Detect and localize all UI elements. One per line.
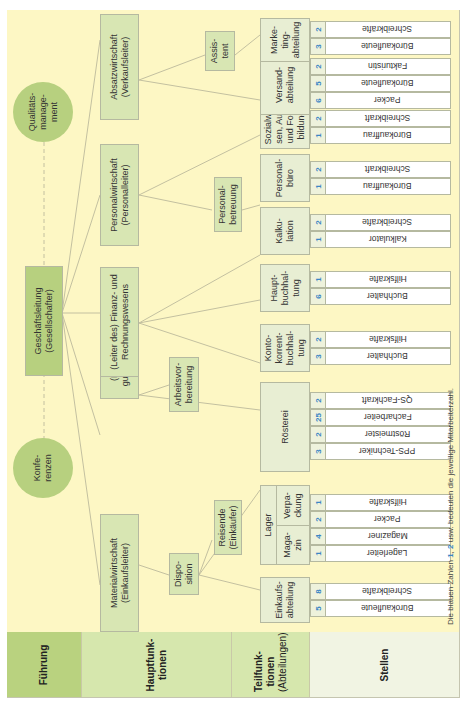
- stelle-hb-buchhalter: 6Buchhalter: [310, 288, 451, 305]
- department-text: Kalku- lation: [274, 218, 296, 244]
- stelle-fakturistin: 2Fakturistin: [310, 58, 451, 75]
- stelle-pb-buerokauffrau: 1Bürokauffrau: [310, 178, 451, 195]
- stelle-count: 2: [311, 427, 326, 442]
- main-function-text: Absatzwirtschaft (Verkaufsleiter): [109, 34, 131, 100]
- department-verpackung: Verpa- ckung: [276, 485, 310, 526]
- department-text: Lager: [263, 513, 274, 536]
- intermediate-text: Dispo- sition: [173, 561, 195, 587]
- stelle-label: Packer: [374, 515, 400, 525]
- stelle-label: Bürokaufleute: [361, 42, 413, 52]
- konferenzen-text: Konfe- renzen: [32, 454, 54, 482]
- department-text: Konto- korrent- buchhal- tung: [263, 331, 307, 366]
- stelle-label: Schreibkräfte: [362, 25, 412, 35]
- stelle-count: 1: [311, 546, 326, 561]
- main-function-personalwirtschaft: Personalwirtschaft (Personalleiter): [100, 144, 139, 246]
- stelle-roestmeister: 2Röstmeister: [310, 426, 451, 443]
- stelle-label: Schreibkräfte: [362, 587, 412, 597]
- department-text: Einkaufs- abteilung: [274, 581, 296, 619]
- footnote-number: 1: [446, 553, 455, 557]
- department-text: Maga- zin: [282, 532, 304, 558]
- stelle-kalkulator: 1Kalkulator: [310, 231, 451, 248]
- stelle-count: 2: [311, 22, 326, 37]
- department-text: Marke- ting- abteilung: [269, 22, 302, 59]
- main-function-absatzwirtschaft: Absatzwirtschaft (Verkaufsleiter): [100, 14, 139, 120]
- main-function-text: Personalwirtschaft (Personalleiter): [109, 158, 131, 232]
- stelle-count: 2: [311, 59, 326, 74]
- department-text: Rösterei: [280, 410, 291, 444]
- department-personalbuero: Personal- büro: [260, 154, 310, 202]
- stelle-count: 6: [311, 93, 326, 108]
- stelle-label: Buchhalter: [367, 292, 408, 302]
- footnote-number: 2: [446, 544, 455, 548]
- stelle-count: 25: [311, 410, 326, 425]
- intermediate-text: Arbeitsvor- bereitung: [173, 363, 195, 407]
- stelle-label: Schreibkraft: [365, 165, 410, 175]
- stelle-label: Lagerleiter: [367, 549, 407, 559]
- stelle-count: 3: [311, 39, 326, 54]
- department-versand: Versand- abteilung: [260, 55, 310, 115]
- stelle-label: Bürokaufleute: [361, 79, 413, 89]
- personalbetreuung-box: Personal- betreuung: [214, 177, 242, 232]
- stelle-kalk-schreibkraefte: 2Schreibkräfte: [310, 214, 451, 231]
- stelle-label: PPS-Techniker: [359, 447, 415, 457]
- department-text: Verpa- ckung: [282, 492, 304, 519]
- geschaeftsleitung-text: Geschäftsleitung (Gesellschafter): [33, 287, 55, 354]
- stelle-count: 1: [311, 232, 326, 247]
- department-text: Haupt- buchhal- tung: [269, 271, 302, 306]
- stelle-label: Hilfskräfte: [369, 335, 407, 345]
- stelle-versand-packer: 6Packer: [310, 92, 451, 109]
- stelle-magaziner: 4Magaziner: [310, 528, 451, 545]
- stelle-label: Bürokaufleute: [361, 604, 413, 614]
- stelle-label: Packer: [374, 96, 400, 106]
- intermediate-text: Reisende (Einkäufer): [217, 506, 239, 550]
- assistent-box: Assis- tent: [205, 31, 235, 71]
- department-hauptbuchhaltung: Haupt- buchhal- tung: [260, 264, 310, 312]
- stelle-label: Buchhalter: [367, 352, 408, 362]
- department-magazin: Maga- zin: [276, 525, 310, 565]
- qualitaetsmanagement-text: Qualitäts- manage- ment: [27, 93, 60, 132]
- intermediate-text: Personal- betreuung: [217, 184, 239, 225]
- reisende-box: Reisende (Einkäufer): [214, 500, 242, 555]
- stelle-packer-lager: 2Packer: [310, 511, 451, 528]
- footnote: Die blauen Zahlen 1, 2 usw. bedeuten die…: [446, 388, 455, 625]
- stelle-pps-techniker: 3PPS-Techniker: [310, 443, 451, 460]
- stelle-kk-buchhalter: 3Buchhalter: [310, 348, 451, 365]
- stelle-count: 4: [311, 529, 326, 544]
- department-marketing: Marke- ting- abteilung: [260, 18, 310, 62]
- department-kalkulation: Kalku- lation: [260, 207, 310, 255]
- stelle-label: Kalkulator: [369, 235, 407, 245]
- department-lager: Lager: [260, 485, 277, 565]
- stelle-sw-schreibkraft: 2Schreibkraft: [310, 110, 451, 127]
- stelle-hb-hilfskraefte: 1Hilfskräfte: [310, 271, 451, 288]
- stelle-label: Fakturistin: [368, 62, 407, 72]
- main-function-text: (Leiter des) Finanz- und Rechnungswesens: [109, 274, 131, 370]
- stelle-label: Facharbeiter: [364, 413, 412, 423]
- stelle-mk-schreibkraefte: 2Schreibkräfte: [310, 21, 451, 38]
- geschaeftsleitung-box: Geschäftsleitung (Gesellschafter): [25, 266, 63, 376]
- stelle-count: 6: [311, 289, 326, 304]
- stelle-lagerleiter: 1Lagerleiter: [310, 545, 451, 562]
- footnote-text: ,: [446, 549, 455, 553]
- stelle-einkauf-schreibkraefte: 8Schreibkräfte: [310, 583, 451, 600]
- stelle-count: 5: [311, 76, 326, 91]
- footnote-text: Die blauen Zahlen: [446, 558, 455, 625]
- stelle-count: 2: [311, 332, 326, 347]
- stelle-label: Bürokauffrau: [363, 182, 412, 192]
- stelle-einkauf-buerokaufleute: 5Bürokaufleute: [310, 600, 451, 617]
- department-einkauf: Einkaufs- abteilung: [260, 577, 310, 623]
- stelle-count: 3: [311, 349, 326, 364]
- stelle-qs-fachkraft: 2QS-Fachkraft: [310, 392, 451, 409]
- arbeitsvorbereitung-box: Arbeitsvor- bereitung: [169, 357, 199, 412]
- stelle-label: Bürokauffrau: [363, 131, 412, 141]
- stelle-hilfskraefte-lager: 1Hilfskräfte: [310, 494, 451, 511]
- stelle-label: Hilfskräfte: [369, 275, 407, 285]
- stelle-label: Schreibkräfte: [362, 218, 412, 228]
- department-text: Versand- abteilung: [274, 67, 296, 104]
- stelle-sw-buerokauffrau: 1Bürokauffrau: [310, 127, 451, 144]
- intermediate-text: Assis- tent: [209, 39, 231, 64]
- stelle-label: Schreibkraft: [365, 114, 410, 124]
- stelle-kk-hilfskraefte: 2Hilfskräfte: [310, 331, 451, 348]
- stelle-count: 1: [311, 179, 326, 194]
- stelle-label: Röstmeister: [365, 430, 410, 440]
- main-function-text: Materialwirtschaft (Einkaufsleiter): [109, 538, 131, 608]
